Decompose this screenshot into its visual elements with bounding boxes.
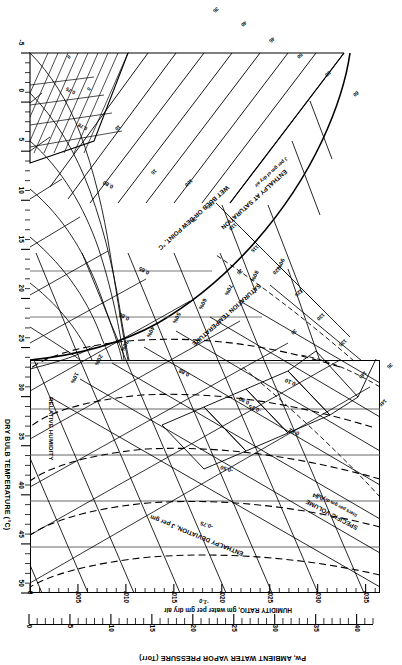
wb-label-35: 35 <box>386 362 394 370</box>
vapor-pressure-tick-5: 5 <box>67 625 73 629</box>
humidity-ratio-axis-title: HUMIDITY RATIO, gm water per gm dry air <box>164 607 292 613</box>
vapor-pressure-tick-0: 0 <box>26 625 32 629</box>
humidity-ratio-ticks <box>0 579 402 593</box>
relative-humidity-caption: RELATIVE HUMIDITY <box>48 397 54 460</box>
psychrometric-chart-sheet: Pw, AMBIENT WATER VAPOR PRESSURE (Torr) … <box>0 0 402 665</box>
dry-bulb-ticks <box>16 48 30 593</box>
vapor-pressure-tick-35: 35 <box>313 625 319 632</box>
vapor-pressure-tick-15: 15 <box>149 625 155 632</box>
vapor-pressure-tick-25: 25 <box>231 625 237 632</box>
dry-bulb-tick--5: -5 <box>18 40 24 46</box>
ed-label-100: -1.0 <box>199 597 210 605</box>
chart-plot-area: SPECIFIC VOLUME liters per gm dry air 0.… <box>30 53 380 593</box>
vapor-pressure-tick-20: 20 <box>190 625 196 632</box>
h-label-40: 40 <box>240 20 248 28</box>
h-label-35: 35 <box>212 6 220 14</box>
vapor-pressure-tick-10: 10 <box>108 625 114 632</box>
vapor-pressure-tick-40: 40 <box>354 625 360 632</box>
vapor-pressure-tick-30: 30 <box>272 625 278 632</box>
dry-bulb-axis-title: DRY BULB TEMPERATURE (°C) <box>3 419 10 530</box>
